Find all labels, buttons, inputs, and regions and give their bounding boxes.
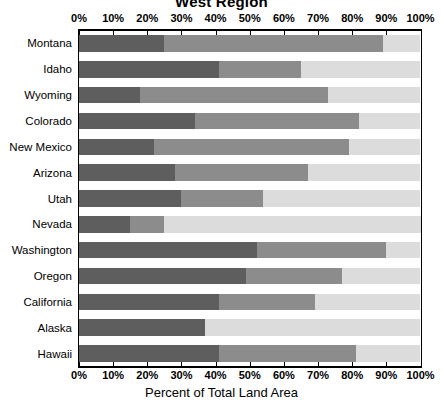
x-axis-title: Percent of Total Land Area	[0, 385, 443, 401]
bar-segment-dark	[79, 87, 140, 104]
bar-segment-medium	[175, 164, 308, 181]
bar-track	[79, 190, 421, 207]
bar-category-label: Arizona	[33, 166, 72, 179]
x-axis-tick-labels-bottom: 0%10%20%30%40%50%60%70%80%90%100%	[0, 369, 443, 382]
x-tick-label-bottom: 0%	[71, 369, 87, 382]
bar-segment-light	[308, 164, 421, 181]
bar-category-label: Hawaii	[37, 347, 72, 360]
bar-category-label: Washington	[12, 244, 72, 257]
bar-segment-light	[164, 216, 420, 233]
bar-segment-medium	[246, 268, 342, 285]
bar-row: Alaska	[0, 319, 443, 336]
bar-segment-medium	[164, 35, 383, 52]
bar-category-label: Montana	[27, 37, 72, 50]
bar-track	[79, 35, 421, 52]
bar-segment-dark	[79, 190, 181, 207]
bar-segment-dark	[79, 35, 164, 52]
bar-category-label: New Mexico	[9, 140, 72, 153]
bar-segment-medium	[140, 87, 328, 104]
x-tick-label-bottom: 60%	[273, 369, 295, 382]
bar-track	[79, 216, 421, 233]
bar-segment-medium	[130, 216, 164, 233]
bar-row: Montana	[0, 35, 443, 52]
bar-segment-dark	[79, 319, 205, 336]
bar-track	[79, 294, 421, 311]
bar-row: New Mexico	[0, 139, 443, 156]
bar-segment-dark	[79, 345, 219, 362]
bar-row: Washington	[0, 242, 443, 259]
bar-category-label: Idaho	[43, 63, 72, 76]
bar-segment-dark	[79, 113, 195, 130]
bar-segment-light	[328, 87, 420, 104]
x-tick-label-bottom: 90%	[375, 369, 397, 382]
bar-segment-light	[386, 242, 420, 259]
bar-track	[79, 61, 421, 78]
bars-layer: MontanaIdahoWyomingColoradoNew MexicoAri…	[0, 0, 443, 407]
bar-segment-dark	[79, 268, 246, 285]
bar-category-label: Oregon	[34, 270, 72, 283]
bar-segment-dark	[79, 139, 154, 156]
bar-segment-light	[263, 190, 420, 207]
bar-row: Nevada	[0, 216, 443, 233]
bar-track	[79, 113, 421, 130]
bar-track	[79, 242, 421, 259]
bar-row: Arizona	[0, 164, 443, 181]
bar-row: Utah	[0, 190, 443, 207]
bar-category-label: Alaska	[37, 321, 72, 334]
bar-segment-light	[205, 319, 420, 336]
x-tick-label-bottom: 70%	[307, 369, 329, 382]
bar-segment-light	[359, 113, 420, 130]
bar-row: Idaho	[0, 61, 443, 78]
bar-segment-light	[342, 268, 421, 285]
bar-segment-light	[383, 35, 421, 52]
bar-row: Oregon	[0, 268, 443, 285]
bar-track	[79, 87, 421, 104]
x-tick-label-bottom: 100%	[406, 369, 434, 382]
x-tick-label-bottom: 20%	[136, 369, 158, 382]
bar-segment-light	[301, 61, 421, 78]
bar-segment-light	[356, 345, 421, 362]
bar-segment-dark	[79, 61, 219, 78]
bar-row: California	[0, 294, 443, 311]
bar-segment-dark	[79, 216, 130, 233]
bar-row: Colorado	[0, 113, 443, 130]
stacked-bar-chart: West Region 0%10%20%30%40%50%60%70%80%90…	[0, 0, 443, 407]
bar-segment-dark	[79, 164, 175, 181]
bar-segment-medium	[195, 113, 359, 130]
bar-segment-medium	[219, 61, 301, 78]
bar-segment-medium	[219, 294, 315, 311]
bar-segment-medium	[181, 190, 263, 207]
bar-segment-dark	[79, 294, 219, 311]
bar-track	[79, 345, 421, 362]
x-tick-label-bottom: 30%	[170, 369, 192, 382]
bar-segment-medium	[257, 242, 387, 259]
bar-segment-light	[315, 294, 421, 311]
bar-category-label: Wyoming	[24, 89, 72, 102]
bar-track	[79, 139, 421, 156]
x-tick-label-bottom: 40%	[205, 369, 227, 382]
bar-category-label: Colorado	[25, 114, 72, 127]
bar-segment-medium	[219, 345, 356, 362]
bar-category-label: Nevada	[32, 218, 72, 231]
x-tick-label-bottom: 10%	[102, 369, 124, 382]
bar-track	[79, 319, 421, 336]
bar-segment-dark	[79, 242, 257, 259]
x-tick-label-bottom: 80%	[341, 369, 363, 382]
bar-row: Hawaii	[0, 345, 443, 362]
bar-track	[79, 164, 421, 181]
x-tick-label-bottom: 50%	[239, 369, 261, 382]
bar-category-label: California	[23, 295, 72, 308]
bar-track	[79, 268, 421, 285]
bar-row: Wyoming	[0, 87, 443, 104]
bar-segment-light	[349, 139, 421, 156]
bar-segment-medium	[154, 139, 349, 156]
bar-category-label: Utah	[48, 192, 72, 205]
